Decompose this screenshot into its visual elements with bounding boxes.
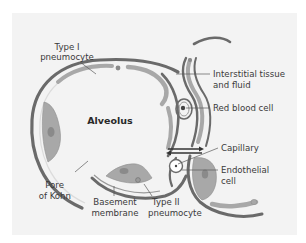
label-type1-line1: Type I <box>53 42 79 52</box>
capillary-wall-upper <box>183 38 230 146</box>
label-alveolus: Alveolus <box>87 115 133 126</box>
label-type1-line2: pneumocyte <box>40 52 94 62</box>
alveolus-diagram: Alveolus Type I pneumocyte Interstitial … <box>0 0 306 243</box>
label-type2-line2: pneumocyte <box>148 208 202 218</box>
label-basement-line1: Basement <box>93 197 137 207</box>
label-pore-line1: Pore <box>45 180 64 190</box>
label-type2-line1: Type II <box>151 197 180 207</box>
label-interstitial-line1: Interstitial tissue <box>213 69 285 79</box>
left-wall-cell <box>42 102 60 162</box>
label-interstitial-line2: and fluid <box>213 80 251 90</box>
label-red-blood-cell: Red blood cell <box>213 103 273 113</box>
label-capillary: Capillary <box>221 143 259 153</box>
label-basement-line2: membrane <box>91 208 138 218</box>
label-endothelial-line2: cell <box>221 176 236 186</box>
label-pore-line2: of Kohn <box>39 191 71 201</box>
label-endothelial-line1: Endothelial <box>221 165 269 175</box>
